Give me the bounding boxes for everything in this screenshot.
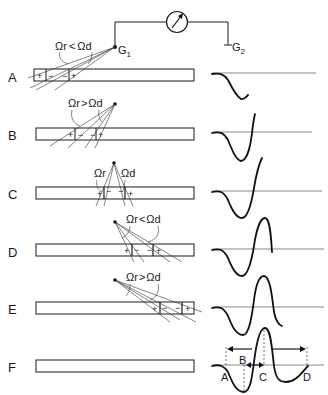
nerve-fiber-f: [36, 360, 194, 372]
svg-text:−: −: [78, 130, 83, 140]
row-label-c: C: [8, 187, 17, 202]
nerve-fiber-d: [36, 244, 194, 256]
nerve-fiber-e: [36, 302, 194, 314]
nerve-fiber-c: [36, 187, 194, 199]
row-label-f: F: [8, 360, 16, 375]
electrode-g2-label: G2: [232, 41, 246, 56]
nerve-fiber-b: [36, 128, 194, 140]
waveform-label-a: A: [221, 371, 229, 383]
volume-conduction-diagram: G1 G2 A + − − + Ωr<Ωd B + − − +: [0, 0, 328, 395]
solid-angle-relation-a: Ωr<Ωd: [55, 40, 92, 52]
omega-r-c: Ωr: [94, 167, 106, 179]
omega-d-c: Ωd: [121, 167, 135, 179]
recording-circuit: G1 G2: [113, 12, 246, 60]
row-a: A + − − + Ωr<Ωd: [8, 40, 316, 99]
solid-angle-relation-d: Ωr<Ωd: [126, 213, 161, 225]
row-label-d: D: [8, 245, 17, 260]
svg-text:+: +: [128, 189, 133, 199]
svg-text:−: −: [90, 130, 95, 140]
waveform-label-b: B: [239, 354, 246, 366]
waveform-b: [212, 114, 255, 161]
waveform-label-d: D: [303, 371, 311, 383]
svg-text:+: +: [71, 71, 76, 81]
waveform-d: [212, 218, 272, 276]
waveform-a: [212, 74, 248, 100]
row-label-a: A: [8, 70, 17, 85]
row-c: C + − − + Ωr Ωd: [8, 158, 322, 218]
waveform-e: [212, 276, 282, 335]
svg-text:+: +: [156, 246, 161, 256]
svg-text:+: +: [185, 304, 190, 314]
row-b: B + − − + Ωr>Ωd: [8, 97, 312, 161]
electrode-g1-label: G1: [118, 44, 132, 59]
svg-text:−: −: [147, 245, 152, 255]
svg-text:+: +: [37, 71, 42, 81]
svg-text:−: −: [134, 245, 139, 255]
row-e: E + − − + Ωr>Ωd: [8, 271, 324, 335]
solid-angle-relation-b: Ωr>Ωd: [68, 97, 103, 109]
row-d: D + − − + Ωr<Ωd: [8, 213, 324, 276]
nerve-fiber-a: [34, 69, 194, 81]
waveform-label-c: C: [259, 371, 267, 383]
row-label-e: E: [8, 302, 17, 317]
waveform-c: [212, 158, 262, 218]
svg-text:−: −: [48, 71, 53, 81]
row-label-b: B: [8, 128, 17, 143]
solid-angle-relation-e: Ωr>Ωd: [126, 271, 161, 283]
row-f: F A B C D: [8, 328, 324, 392]
